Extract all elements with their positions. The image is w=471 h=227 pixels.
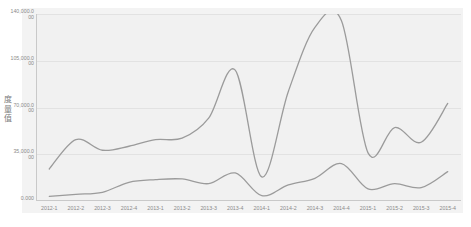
x-axis-tick-label: 2012-4 [116,203,143,217]
x-axis-tick-label: 2014-2 [275,203,302,217]
x-axis-tick-label: 2013-2 [169,203,196,217]
line-series-series-lower [49,163,447,196]
y-axis-tick-label: 105,000.000 [0,56,34,67]
y-axis-tick-label: 35,000.000 [0,149,34,160]
x-axis-tick-label: 2013-1 [142,203,169,217]
x-axis-tick-label: 2015-2 [381,203,408,217]
x-axis-tick-label: 2015-1 [355,203,382,217]
y-axis-tick-label: 140,000.000 [0,9,34,20]
x-axis-tick-label: 2012-1 [36,203,63,217]
y-axis-title: 度量值 [2,95,13,124]
x-axis-tick-label: 2014-4 [328,203,355,217]
y-axis-tick-label: 0.000 [0,196,34,202]
x-axis-tick-label: 2015-3 [408,203,435,217]
x-axis-tick-label: 2015-4 [434,203,461,217]
x-axis-tick-label: 2012-3 [89,203,116,217]
x-axis-tick-label: 2013-3 [195,203,222,217]
line-chart: 140,000.000105,000.00070,000.00035,000.0… [0,0,471,227]
x-axis-tick-label: 2012-2 [63,203,90,217]
x-axis-tick-label: 2014-1 [249,203,276,217]
x-axis-tick-label: 2013-4 [222,203,249,217]
line-series-series-upper [49,14,447,177]
x-axis-tick-label: 2014-3 [302,203,329,217]
x-axis-tick-labels: 2012-12012-22012-32012-42013-12013-22013… [36,203,461,217]
series-lines [36,14,461,201]
